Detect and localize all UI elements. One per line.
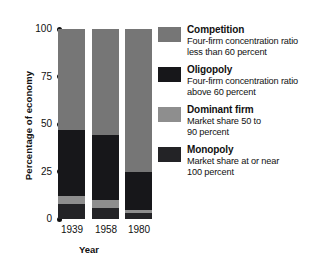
legend-item-dominant-firm[interactable]: Dominant firmMarket share 50 to90 percen… [158, 104, 309, 142]
bar-segment-dominant-firm [92, 200, 119, 208]
legend-swatch-icon [158, 27, 181, 42]
bar-segment-oligopoly [92, 135, 119, 200]
legend-item-label: Competition [187, 24, 309, 36]
legend-swatch-icon [158, 67, 181, 82]
legend-item-competition[interactable]: CompetitionFour-firm concentration ratio… [158, 24, 309, 62]
legend-item-description-line-2: 100 percent [187, 167, 309, 178]
legend-item-oligopoly[interactable]: OligopolyFour-firm concentration ratioab… [158, 64, 309, 102]
legend-swatch-icon [158, 147, 181, 162]
y-axis-tick-label: 50 [41, 118, 52, 130]
x-axis-label-1958: 1958 [89, 224, 123, 235]
legend-item-description-line-2: above 60 percent [187, 87, 309, 98]
y-axis-tick-label: 25 [41, 166, 52, 178]
bar-1939 [58, 29, 85, 219]
legend-item-label: Monopoly [187, 144, 309, 156]
bar-segment-competition [58, 29, 85, 130]
legend-item-description-line-1: Four-firm concentration ratio [187, 36, 309, 47]
y-axis-tick-label: 75 [41, 71, 52, 83]
legend-text: CompetitionFour-firm concentration ratio… [187, 24, 309, 58]
chart-root: Percentage of economy 1007550250 1939195… [0, 0, 309, 276]
legend-text: OligopolyFour-firm concentration ratioab… [187, 64, 309, 98]
legend-item-label: Dominant firm [187, 104, 309, 116]
bar-1980 [125, 29, 152, 219]
x-axis-labels: 193919581980 [58, 224, 158, 240]
y-axis-tick-label: 0 [46, 213, 52, 225]
bar-segment-competition [125, 29, 152, 172]
y-axis-tick-label: 100 [35, 23, 52, 35]
legend-item-description-line-1: Market share 50 to [187, 116, 309, 127]
chart-legend: CompetitionFour-firm concentration ratio… [158, 24, 309, 184]
legend-swatch-icon [158, 107, 181, 122]
legend-item-description-line-1: Market share at or near [187, 156, 309, 167]
plot-area [58, 29, 158, 219]
bar-segment-oligopoly [58, 130, 85, 197]
bar-segment-oligopoly [125, 172, 152, 210]
bar-1958 [92, 29, 119, 219]
legend-item-description-line-2: less than 60 percent [187, 47, 309, 58]
bar-segment-monopoly [92, 208, 119, 219]
legend-item-label: Oligopoly [187, 64, 309, 76]
legend-item-monopoly[interactable]: MonopolyMarket share at or near100 perce… [158, 144, 309, 182]
x-axis-title: Year [58, 244, 120, 255]
legend-text: Dominant firmMarket share 50 to90 percen… [187, 104, 309, 138]
bar-segment-monopoly [58, 204, 85, 219]
legend-item-description-line-2: 90 percent [187, 127, 309, 138]
bar-segment-dominant-firm [58, 196, 85, 204]
x-axis-label-1939: 1939 [55, 224, 89, 235]
bar-segment-competition [92, 29, 119, 135]
bar-segment-monopoly [125, 213, 152, 219]
legend-text: MonopolyMarket share at or near100 perce… [187, 144, 309, 178]
x-axis-label-1980: 1980 [122, 224, 156, 235]
legend-item-description-line-1: Four-firm concentration ratio [187, 76, 309, 87]
